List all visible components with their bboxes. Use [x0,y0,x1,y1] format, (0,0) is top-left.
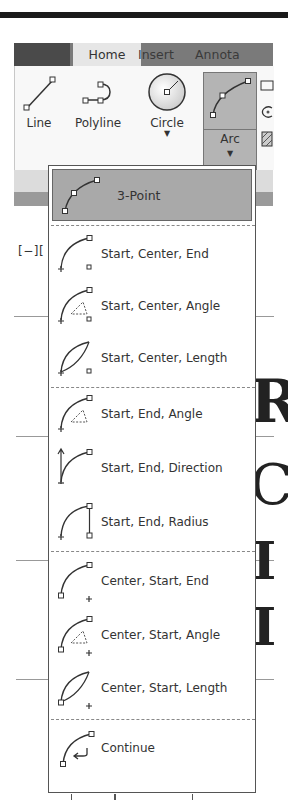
menu-item-label: Start, End, Angle [101,407,203,421]
tab-insert[interactable]: Insert [132,43,180,66]
ribbon-tab-bar: Home Insert Annota [14,43,273,66]
menu-item-label: Center, Start, End [101,574,209,588]
menu-item-center-start-angle[interactable]: Center, Start, Angle [49,610,255,660]
ellipse-icon[interactable] [260,104,276,130]
menu-item-start-end-angle[interactable]: Start, End, Angle [49,389,255,439]
arc-dropdown-menu: 3-Point Start, Center, End Start, Center… [48,165,256,793]
drawing-line [16,436,48,437]
polyline-label: Polyline [69,116,127,130]
menu-item-start-end-radius[interactable]: Start, End, Radius [49,497,255,547]
drawing-line [16,679,48,680]
menu-item-label: Start, End, Radius [101,515,209,529]
arc-dropdown-caret[interactable]: ▼ [204,149,256,158]
menu-separator [51,551,255,553]
circle-icon [145,70,189,114]
menu-item-label: Start, Center, Length [101,351,227,365]
menu-item-label: Center, Start, Angle [101,628,220,642]
menu-item-label: Start, Center, End [101,247,209,261]
menu-item-label: 3-Point [117,188,161,203]
drawing-line [256,679,274,680]
drawing-line [256,316,274,317]
menu-item-center-start-length[interactable]: Center, Start, Length [49,663,255,713]
menu-item-continue[interactable]: Continue [49,723,255,773]
drawing-line [16,560,48,561]
menu-item-start-center-end[interactable]: Start, Center, End [49,229,255,279]
arc-3point-icon [59,174,101,216]
hatch-icon[interactable] [260,130,276,156]
menu-item-label: Start, Center, Angle [101,299,220,313]
menu-item-3-point[interactable]: 3-Point [52,169,252,221]
line-button[interactable]: Line [19,70,59,130]
menu-item-label: Start, End, Direction [101,461,223,475]
polyline-button[interactable]: Polyline [69,70,127,130]
circle-dropdown-caret[interactable]: ▼ [143,130,191,138]
drawing-line [14,316,48,317]
arc-start-center-angle-icon [55,284,95,328]
ruler-tick [71,794,72,800]
viewport-controls[interactable]: [−][ [18,244,44,258]
tab-annotate[interactable]: Annota [189,43,246,66]
draw-panel: Line Polyline Circle ▼ Arc ▼ [14,66,274,170]
line-label: Line [19,116,59,130]
menu-item-label: Continue [101,741,155,755]
rectangle-icon[interactable] [260,78,276,104]
ruler-tick [192,794,193,800]
circle-label: Circle [143,116,191,130]
arc-split-divider [204,129,256,130]
window-top-border [0,12,288,18]
arc-center-start-end-icon [55,559,95,603]
menu-item-start-center-length[interactable]: Start, Center, Length [49,333,255,383]
tab-home[interactable]: Home [73,43,141,66]
arc-start-end-direction-icon [55,446,95,490]
arc-start-center-end-icon [55,232,95,276]
menu-item-start-end-direction[interactable]: Start, End, Direction [49,443,255,493]
arc-start-end-angle-icon [55,392,95,436]
ribbon-tab-dark [14,43,70,66]
arc-icon [204,73,256,125]
menu-item-start-center-angle[interactable]: Start, Center, Angle [49,281,255,331]
menu-separator [51,719,255,721]
polyline-icon [76,70,120,114]
arc-label: Arc [204,132,256,146]
arc-center-start-angle-icon [55,613,95,657]
menu-separator [51,225,255,227]
arc-center-start-length-icon [55,666,95,710]
menu-item-label: Center, Start, Length [101,681,227,695]
menu-item-center-start-end[interactable]: Center, Start, End [49,556,255,606]
arc-start-end-radius-icon [55,500,95,544]
circle-button[interactable]: Circle ▼ [143,70,191,138]
arc-continue-icon [55,726,95,770]
drawing-line [256,436,274,437]
ruler-tick [114,794,116,800]
arc-button[interactable]: Arc ▼ [203,72,257,172]
arc-start-center-length-icon [55,336,95,380]
draw-side-icons [260,78,276,156]
line-icon [19,70,59,114]
